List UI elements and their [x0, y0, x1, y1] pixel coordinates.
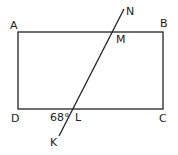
point-label-k: K: [50, 136, 58, 149]
point-label-l: L: [75, 111, 82, 124]
vertex-label-c: C: [159, 112, 167, 125]
angle-label: 68°: [50, 111, 70, 124]
vertex-label-a: A: [10, 19, 18, 32]
rectangle-abcd: [18, 32, 163, 109]
geometry-diagram: A B C D M N L K 68°: [0, 0, 178, 155]
point-label-n: N: [126, 5, 134, 18]
point-label-m: M: [116, 33, 126, 46]
vertex-label-b: B: [160, 17, 168, 30]
vertex-label-d: D: [11, 112, 19, 125]
